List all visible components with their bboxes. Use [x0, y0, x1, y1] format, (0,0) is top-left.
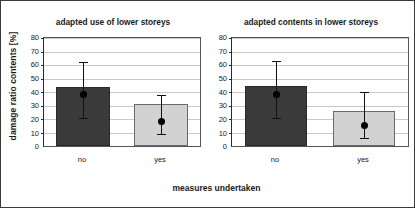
chart-figure: damage ratio contents [%] adapted use of…	[0, 0, 415, 208]
y-tick-70-right: 70	[219, 46, 227, 55]
y-tick-0-right: 0	[223, 142, 227, 151]
error-cap-no-high	[272, 61, 281, 62]
y-axis-label-text: damage ratio contents [%]	[8, 32, 18, 141]
gridline-80	[232, 38, 408, 39]
marker-yes	[361, 122, 368, 129]
error-cap-no-low	[79, 118, 88, 119]
gridline-50	[232, 79, 408, 80]
y-tick-60: 60	[31, 60, 39, 69]
plot-area-right	[231, 37, 409, 147]
y-tick-80-right: 80	[219, 33, 227, 42]
tickmark-50	[229, 79, 232, 80]
y-tick-40-right: 40	[219, 87, 227, 96]
y-tick-30-right: 30	[219, 101, 227, 110]
panel-title-right: adapted contents in lower storeys	[211, 17, 411, 27]
error-bar-no	[276, 61, 277, 118]
plot-area-left	[43, 37, 201, 147]
y-tick-20: 20	[31, 115, 39, 124]
error-cap-yes-high	[157, 95, 166, 96]
x-category-yes-right: yes	[357, 155, 369, 164]
y-tick-70: 70	[31, 46, 39, 55]
tickmark-20	[41, 119, 44, 120]
y-tick-30: 30	[31, 101, 39, 110]
x-category-no-left: no	[78, 155, 86, 164]
y-tick-10: 10	[31, 128, 39, 137]
x-category-yes-left: yes	[154, 155, 166, 164]
tickmark-70	[41, 52, 44, 53]
gridline-60	[232, 65, 408, 66]
gridline-80	[44, 38, 200, 39]
y-tick-50-right: 50	[219, 74, 227, 83]
y-tick-60-right: 60	[219, 60, 227, 69]
error-bar-yes	[161, 95, 162, 134]
marker-no	[80, 91, 87, 98]
gridline-60	[44, 65, 200, 66]
tickmark-80	[229, 38, 232, 39]
panel-adapted-contents: adapted contents in lower storeys 80 70 …	[211, 9, 411, 177]
gridline-70	[232, 52, 408, 53]
plot-wrap-left: 80 70 60 50 40 30 20 10 0	[23, 37, 203, 153]
tickmark-60	[229, 65, 232, 66]
plot-wrap-right: 80 70 60 50 40 30 20 10 0	[211, 37, 411, 153]
error-cap-yes-low	[360, 138, 369, 139]
tickmark-40	[41, 92, 44, 93]
marker-yes	[158, 118, 165, 125]
y-axis-ticks-left: 80 70 60 50 40 30 20 10 0	[23, 37, 41, 147]
y-axis-label: damage ratio contents [%]	[1, 1, 25, 171]
error-bar-yes	[364, 92, 365, 138]
chart-panels: adapted use of lower storeys 80 70 60 50…	[23, 9, 413, 177]
error-cap-no-low	[272, 118, 281, 119]
x-axis-label: measures undertaken	[23, 183, 410, 193]
y-tick-80: 80	[31, 33, 39, 42]
x-category-no-right: no	[271, 155, 279, 164]
y-tick-40: 40	[31, 87, 39, 96]
tickmark-70	[229, 52, 232, 53]
panel-adapted-use: adapted use of lower storeys 80 70 60 50…	[23, 9, 203, 177]
tickmark-60	[41, 65, 44, 66]
error-bar-no	[83, 62, 84, 117]
marker-no	[273, 91, 280, 98]
tickmark-30	[41, 106, 44, 107]
tickmark-10	[229, 133, 232, 134]
tickmark-80	[41, 38, 44, 39]
y-tick-10-right: 10	[219, 128, 227, 137]
y-tick-0: 0	[35, 142, 39, 151]
tickmark-40	[229, 92, 232, 93]
error-cap-yes-low	[157, 134, 166, 135]
gridline-70	[44, 52, 200, 53]
tickmark-10	[41, 133, 44, 134]
panel-title-left: adapted use of lower storeys	[23, 17, 203, 27]
y-axis-ticks-right: 80 70 60 50 40 30 20 10 0	[211, 37, 229, 147]
tickmark-30	[229, 106, 232, 107]
tickmark-20	[229, 119, 232, 120]
y-tick-20-right: 20	[219, 115, 227, 124]
gridline-50	[44, 79, 200, 80]
y-tick-50: 50	[31, 74, 39, 83]
error-cap-no-high	[79, 62, 88, 63]
error-cap-yes-high	[360, 92, 369, 93]
tickmark-50	[41, 79, 44, 80]
